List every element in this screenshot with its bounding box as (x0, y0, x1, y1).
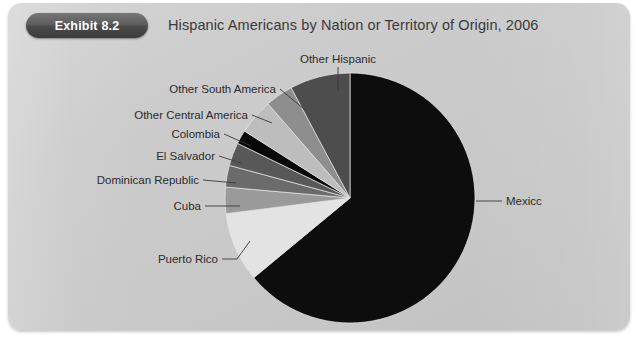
slice-label-colombia: Colombia (171, 128, 220, 140)
slice-label-mexico: Mexicc (506, 195, 542, 207)
slice-label-el-salvador: El Salvador (156, 150, 215, 162)
pie-slices (225, 73, 475, 323)
slice-label-cuba: Cuba (174, 200, 202, 212)
slice-label-dominican-republic: Dominican Republic (97, 174, 200, 186)
slice-label-puerto-rico: Puerto Rico (158, 253, 218, 265)
pie-chart: Mexicc Puerto Rico Cuba Dominican Republ… (8, 3, 630, 330)
slice-label-other-central-america: Other Central America (134, 109, 248, 121)
pie-chart-svg: Mexicc Puerto Rico Cuba Dominican Republ… (8, 3, 630, 330)
slice-label-other-south-america: Other South America (169, 83, 276, 95)
exhibit-card: Exhibit 8.2 Hispanic Americans by Nation… (8, 3, 630, 330)
slice-label-other-hispanic: Other Hispanic (300, 53, 376, 65)
